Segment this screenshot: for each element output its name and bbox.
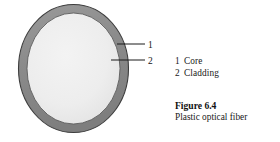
figure-canvas: 1 2 1Core 2Cladding Figure 6.4 Plastic o… — [0, 0, 280, 142]
figure-caption: Figure 6.4 Plastic optical fiber — [175, 100, 280, 124]
legend: 1Core 2Cladding — [175, 56, 280, 79]
figure-caption-subtitle: Plastic optical fiber — [175, 112, 280, 124]
legend-item-core: 1Core — [175, 56, 280, 68]
core-disc — [27, 13, 120, 124]
callout-number-core: 1 — [148, 40, 153, 50]
legend-label-core: Core — [184, 56, 202, 66]
callout-number-cladding: 2 — [148, 56, 153, 66]
legend-label-cladding: Cladding — [184, 68, 219, 78]
figure-caption-title: Figure 6.4 — [175, 100, 280, 112]
legend-item-cladding: 2Cladding — [175, 68, 280, 80]
fiber-cross-section-diagram: 1 2 — [0, 0, 165, 142]
legend-number-2: 2 — [175, 68, 184, 80]
legend-number-1: 1 — [175, 56, 184, 68]
